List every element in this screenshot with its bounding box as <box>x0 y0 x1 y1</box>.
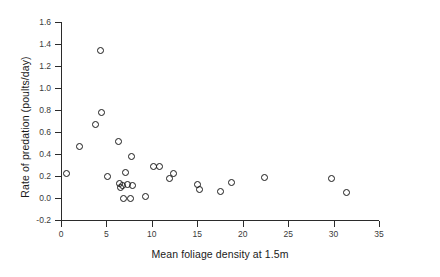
data-point <box>128 153 135 160</box>
data-point <box>97 47 104 54</box>
x-axis-tick-label: 0 <box>46 229 76 239</box>
data-point <box>228 179 235 186</box>
data-point <box>92 121 99 128</box>
x-axis-line <box>61 220 379 221</box>
x-axis-tick-label: 5 <box>91 229 121 239</box>
y-axis-tick-label: 1.0 <box>0 83 51 93</box>
y-axis-tick-label: 0.6 <box>0 127 51 137</box>
x-axis-tick-label: 25 <box>273 229 303 239</box>
x-axis-tick-label: 35 <box>364 229 394 239</box>
data-point <box>98 109 105 116</box>
data-point <box>104 173 111 180</box>
x-axis-tick-label: 20 <box>228 229 258 239</box>
x-axis-tick <box>379 221 380 227</box>
data-point <box>170 170 177 177</box>
data-point <box>115 138 122 145</box>
y-axis-tick-label: 1.4 <box>0 39 51 49</box>
x-axis-tick <box>288 221 289 227</box>
data-point <box>156 163 163 170</box>
y-axis-tick-label: 0.2 <box>0 171 51 181</box>
data-point <box>63 170 70 177</box>
x-axis-tick <box>61 221 62 227</box>
data-point <box>196 186 203 193</box>
data-point <box>127 195 134 202</box>
x-axis-tick <box>197 221 198 227</box>
y-axis-tick-label: 0.0 <box>0 193 51 203</box>
data-point <box>129 182 136 189</box>
y-axis-tick-label: 0.8 <box>0 105 51 115</box>
x-axis-tick-label: 15 <box>182 229 212 239</box>
x-axis-tick-label: 30 <box>319 229 349 239</box>
data-point <box>142 193 149 200</box>
x-axis-tick <box>243 221 244 227</box>
data-point <box>328 175 335 182</box>
data-point <box>122 169 129 176</box>
data-point <box>217 188 224 195</box>
data-point <box>261 174 268 181</box>
x-axis-tick <box>334 221 335 227</box>
x-axis-title: Mean foliage density at 1.5m <box>61 248 379 260</box>
data-point <box>76 143 83 150</box>
y-axis-tick-label: 0.4 <box>0 149 51 159</box>
y-axis-tick-label: 1.2 <box>0 61 51 71</box>
x-axis-tick <box>106 221 107 227</box>
y-axis-tick-label: -0.2 <box>0 215 51 225</box>
x-axis-tick-label: 10 <box>137 229 167 239</box>
plot-area <box>61 22 379 220</box>
data-point <box>343 189 350 196</box>
y-axis-tick-label: 1.6 <box>0 17 51 27</box>
x-axis-tick <box>152 221 153 227</box>
scatter-plot-figure: Rate of predation (poults/day) Mean foli… <box>0 0 440 277</box>
